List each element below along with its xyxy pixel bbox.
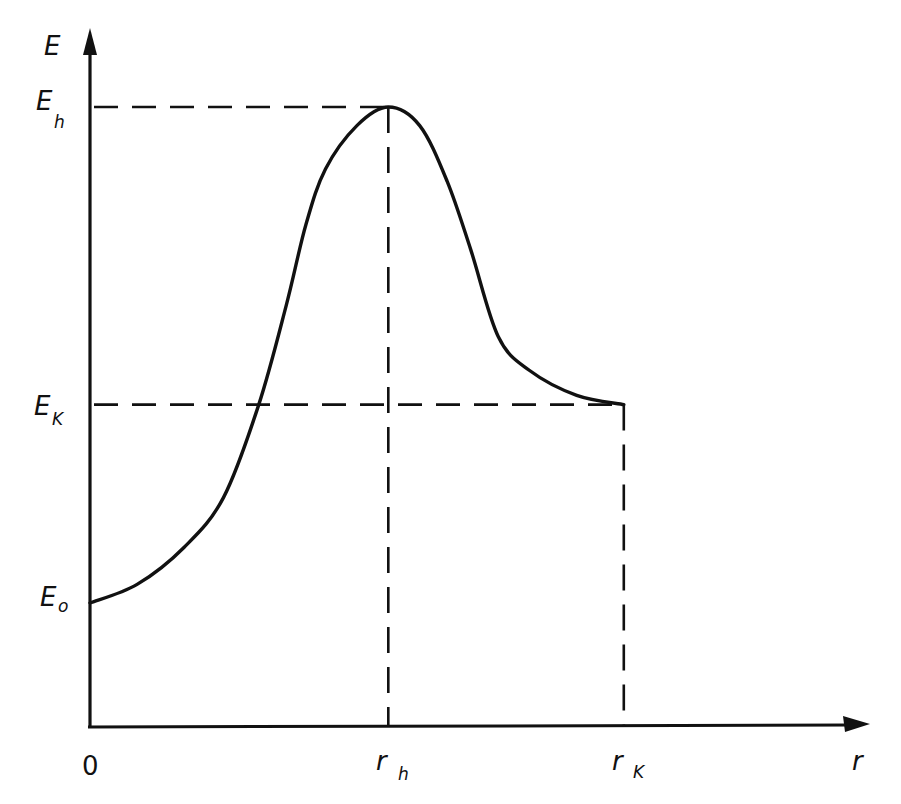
energy-diagram: E r 0 E h E K E o r h r K [0, 0, 901, 804]
x-axis-arrow-icon [843, 716, 870, 732]
label-Eh: E h [36, 86, 65, 132]
energy-curve [90, 107, 624, 603]
label-E0-sub: o [58, 596, 68, 616]
x-axis [88, 725, 850, 727]
y-axis-label: E [44, 31, 61, 61]
label-EK-base: E [34, 391, 51, 421]
label-rK: r K [612, 746, 646, 782]
label-rK-sub: K [633, 762, 646, 782]
label-E0: E o [40, 582, 68, 616]
label-E0-base: E [40, 582, 57, 612]
label-rh: r h [376, 746, 409, 784]
label-EK: E K [34, 391, 65, 429]
guide-lines [94, 107, 624, 727]
label-rK-base: r [612, 746, 625, 776]
label-rh-base: r [376, 746, 389, 776]
label-Eh-sub: h [54, 112, 65, 132]
origin-label: 0 [82, 751, 99, 781]
y-axis-arrow-icon [83, 28, 97, 55]
label-Eh-base: E [36, 86, 53, 116]
label-EK-sub: K [52, 409, 65, 429]
x-axis-label: r [852, 746, 865, 776]
label-rh-sub: h [398, 764, 409, 784]
